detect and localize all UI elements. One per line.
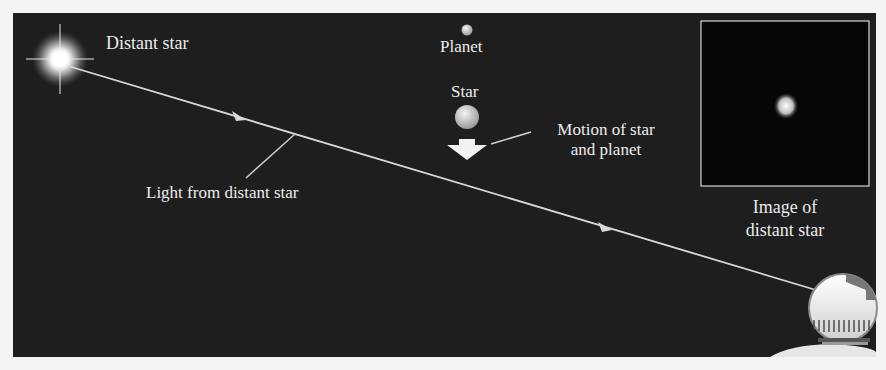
image-label-line2: distant star	[720, 219, 850, 242]
motion-label-line2: and planet	[536, 140, 676, 160]
star-icon	[455, 105, 479, 129]
motion-label-line1: Motion of star	[536, 120, 676, 140]
light-label-leader	[246, 134, 295, 178]
planet-icon	[462, 25, 473, 36]
planet-label: Planet	[440, 37, 483, 57]
image-label: Image of distant star	[720, 196, 850, 242]
distant-star-label: Distant star	[106, 33, 189, 53]
star-image-box	[701, 21, 869, 186]
motion-label-leader	[491, 132, 531, 144]
motion-label: Motion of star and planet	[536, 120, 676, 160]
observatory-icon	[770, 274, 877, 357]
star-label: Star	[451, 82, 478, 102]
distant-star-icon	[26, 24, 94, 94]
light-label: Light from distant star	[146, 183, 299, 203]
image-label-line1: Image of	[720, 196, 850, 219]
motion-arrow-icon	[447, 139, 487, 160]
